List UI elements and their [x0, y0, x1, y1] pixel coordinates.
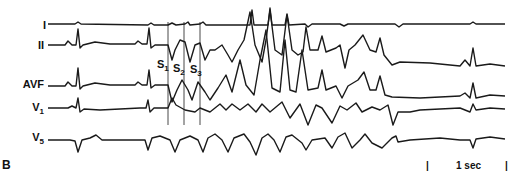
trace-lead-v5	[48, 133, 505, 155]
trace-lead-avf	[48, 30, 505, 102]
trace-lead-i	[48, 8, 505, 27]
trace-lead-v1	[48, 98, 505, 125]
trace-lead-ii	[48, 10, 505, 68]
stimulus-markers	[168, 22, 200, 125]
ecg-traces	[0, 0, 516, 180]
